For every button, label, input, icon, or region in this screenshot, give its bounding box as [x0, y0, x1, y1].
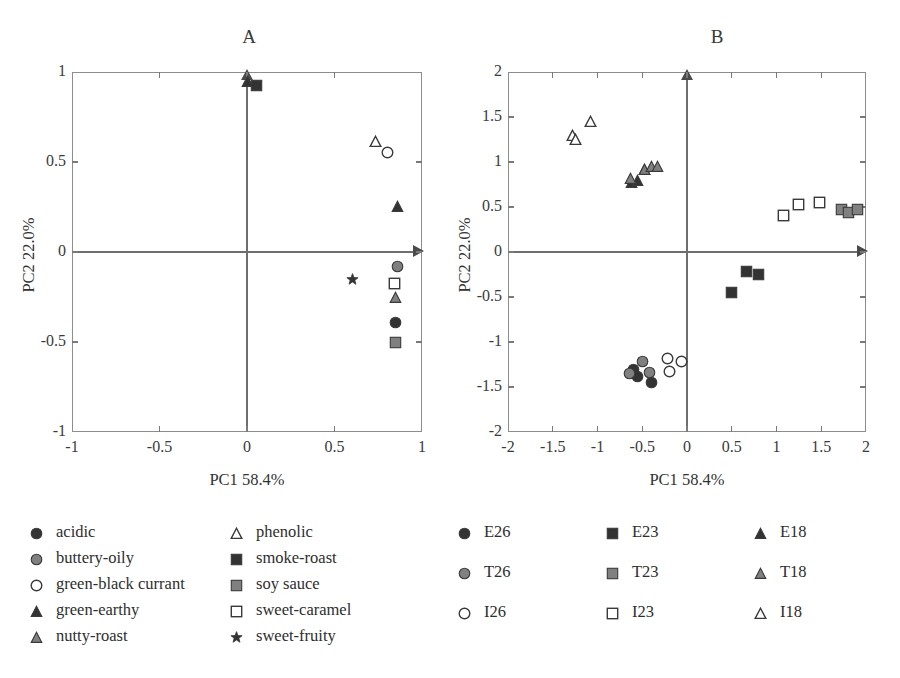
panel-a: A PC1 58.4% PC2 22.0% -1-0.500.51-1-0.50…	[0, 0, 450, 678]
xaxis-tick	[552, 426, 553, 432]
square-open-icon	[230, 605, 243, 618]
xaxis-tick-label: -0.5	[135, 438, 185, 456]
circle-filled-icon	[458, 527, 471, 540]
yaxis-tick	[508, 296, 514, 297]
xaxis-tick	[821, 426, 822, 432]
yaxis-tick-label: 0.5	[458, 197, 502, 215]
xaxis-tick-label: 0.5	[310, 438, 360, 456]
xaxis-tick-label: 0	[662, 438, 712, 456]
data-point-i18	[584, 115, 597, 128]
circle-gray-icon	[458, 567, 471, 580]
yaxis-tick-label: 1	[458, 152, 502, 170]
data-point-i23	[813, 196, 826, 209]
data-point-i18	[569, 133, 582, 146]
square-filled-icon	[230, 553, 243, 566]
yaxis-tick-right	[860, 161, 866, 162]
panel-b-xaxis-title: PC1 58.4%	[612, 470, 762, 490]
xaxis-tick-label: -1	[47, 438, 97, 456]
xaxis-tick	[731, 426, 732, 432]
panel-b-title: B	[697, 26, 737, 48]
panel-origin-yaxis	[686, 72, 688, 432]
square-filled-icon	[606, 527, 619, 540]
yaxis-tick-right	[860, 116, 866, 117]
yaxis-tick-right	[860, 341, 866, 342]
xaxis-tick-top	[552, 72, 553, 78]
square-gray-icon	[230, 579, 243, 592]
triangle-open-icon	[754, 607, 767, 620]
yaxis-tick-label: -1.5	[458, 377, 502, 395]
triangle-open-icon	[230, 527, 243, 540]
legend-label: E26	[484, 522, 511, 542]
legend-label: buttery-oily	[56, 548, 134, 568]
triangle-gray-icon	[754, 567, 767, 580]
xaxis-tick-label: 0	[222, 438, 272, 456]
yaxis-tick-right	[416, 161, 422, 162]
panel-a-legend: acidicbuttery-oilygreen-black currantgre…	[30, 524, 450, 654]
xaxis-tick-label: 1.5	[796, 438, 846, 456]
xaxis-tick-top	[642, 72, 643, 78]
data-point-green-earthy	[391, 200, 404, 213]
data-point-t23	[851, 203, 864, 216]
yaxis-tick	[508, 341, 514, 342]
yaxis-tick-right	[860, 296, 866, 297]
yaxis-tick-label: -1	[22, 422, 66, 440]
legend-label: I26	[484, 602, 506, 622]
legend-label: acidic	[56, 522, 95, 542]
xaxis-tick-label: -2	[483, 438, 533, 456]
yaxis-tick-right	[416, 341, 422, 342]
legend-label: I23	[632, 602, 654, 622]
xaxis-tick-label: -1	[573, 438, 623, 456]
xaxis-tick	[334, 426, 335, 432]
pca-figure: A PC1 58.4% PC2 22.0% -1-0.500.51-1-0.50…	[0, 0, 900, 678]
data-point-i26	[663, 365, 676, 378]
data-point-nutty-roast	[389, 291, 402, 304]
yaxis-tick	[508, 386, 514, 387]
xaxis-tick	[597, 426, 598, 432]
yaxis-tick-right	[860, 386, 866, 387]
legend-label: E23	[632, 522, 659, 542]
xaxis-tick	[642, 426, 643, 432]
data-point-sweet-fruity	[346, 273, 359, 286]
yaxis-tick	[72, 161, 78, 162]
legend-label: T23	[632, 562, 659, 582]
yaxis-tick-label: 2	[458, 62, 502, 80]
legend-label: smoke-roast	[256, 548, 337, 568]
legend-label: I18	[780, 602, 802, 622]
legend-label: soy sauce	[256, 574, 320, 594]
xaxis-tick-top	[159, 72, 160, 78]
xaxis-tick-label: -0.5	[617, 438, 667, 456]
yaxis-tick-label: 1	[22, 62, 66, 80]
xaxis-tick-label: 2	[841, 438, 891, 456]
data-point-t26	[623, 367, 636, 380]
triangle-filled-icon	[754, 527, 767, 540]
data-point-e23	[725, 286, 738, 299]
yaxis-tick-right	[860, 251, 866, 252]
panel-a-xaxis-title: PC1 58.4%	[172, 470, 322, 490]
xaxis-tick	[776, 426, 777, 432]
triangle-filled-icon	[30, 605, 43, 618]
legend-label: phenolic	[256, 522, 313, 542]
legend-label: green-earthy	[56, 600, 139, 620]
yaxis-tick	[508, 161, 514, 162]
xaxis-tick-top	[821, 72, 822, 78]
square-gray-icon	[606, 567, 619, 580]
yaxis-tick	[508, 116, 514, 117]
data-point-sweet-caramel	[388, 277, 401, 290]
data-point-i23	[792, 198, 805, 211]
circle-open-icon	[30, 579, 43, 592]
xaxis-tick-label: -1.5	[528, 438, 578, 456]
triangle-gray-icon	[30, 631, 43, 644]
xaxis-tick	[246, 426, 247, 432]
data-point-t18	[624, 172, 637, 185]
legend-label: green-black currant	[56, 574, 185, 594]
legend-label: E18	[780, 522, 807, 542]
data-point-acidic	[389, 316, 402, 329]
yaxis-tick-label: -0.5	[22, 332, 66, 350]
yaxis-tick-label: 0	[22, 242, 66, 260]
panel-b-legend: E26E23E18T26T23T18I26I23I18	[458, 524, 900, 654]
data-point-phenolic	[369, 135, 382, 148]
yaxis-tick-label: 0.5	[22, 152, 66, 170]
panel-a-title: A	[229, 26, 269, 48]
circle-open-icon	[458, 607, 471, 620]
yaxis-tick	[508, 206, 514, 207]
